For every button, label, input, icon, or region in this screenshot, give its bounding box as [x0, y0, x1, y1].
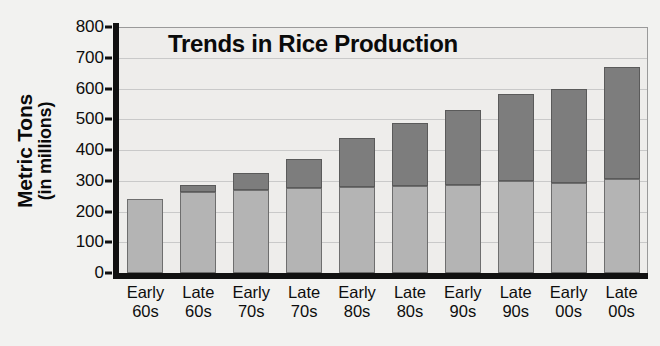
bar-segment-upper: [392, 123, 428, 186]
bar-segment-upper: [233, 173, 269, 190]
bar-column: [498, 27, 534, 273]
bar-segment-upper: [339, 138, 375, 187]
bar-segment-upper: [286, 159, 322, 188]
x-tick-label: Late70s: [278, 283, 331, 321]
bar-column: [445, 27, 481, 273]
y-tick-label: 500: [76, 109, 104, 129]
bar-segment-lower: [127, 199, 163, 273]
x-tick-label: Late90s: [489, 283, 542, 321]
y-axis-title: Metric Tons (in millions): [6, 6, 62, 296]
y-axis-ticks: 8007006005004003002001000: [60, 0, 112, 346]
bar-column: [604, 27, 640, 273]
y-tick-label: 700: [76, 48, 104, 68]
bar-segment-upper: [498, 94, 534, 182]
bar-column: [286, 27, 322, 273]
y-tick-mark: [105, 87, 112, 90]
y-tick-label: 800: [76, 17, 104, 37]
rice-production-chart: Metric Tons (in millions) 80070060050040…: [0, 0, 660, 346]
y-tick-mark: [105, 210, 112, 213]
bar-segment-lower: [233, 190, 269, 273]
bar-segment-upper: [445, 110, 481, 185]
bar-segment-lower: [498, 181, 534, 273]
bar-column: [551, 27, 587, 273]
x-tick-label: Early00s: [542, 283, 595, 321]
x-tick-label: Late00s: [595, 283, 648, 321]
y-tick-label: 300: [76, 171, 104, 191]
bar-column: [180, 27, 216, 273]
bar-segment-lower: [392, 186, 428, 273]
y-tick-label: 100: [76, 232, 104, 252]
bar-segment-lower: [551, 183, 587, 273]
bar-segment-lower: [286, 188, 322, 273]
x-tick-label: Late80s: [384, 283, 437, 321]
x-tick-label: Early80s: [331, 283, 384, 321]
bar-segment-upper: [551, 89, 587, 184]
bar-segment-upper: [180, 185, 216, 191]
y-tick-label: 600: [76, 79, 104, 99]
y-tick-mark: [105, 118, 112, 121]
y-tick-mark: [105, 179, 112, 182]
bar-column: [127, 27, 163, 273]
x-axis-labels: Early60sLate60sEarly70sLate70sEarly80sLa…: [119, 283, 648, 339]
bar-segment-upper: [604, 67, 640, 179]
x-tick-label: Early70s: [225, 283, 278, 321]
x-tick-label: Late60s: [172, 283, 225, 321]
y-tick-mark: [105, 56, 112, 59]
y-tick-mark: [105, 26, 112, 29]
bar-segment-lower: [604, 179, 640, 273]
bar-column: [392, 27, 428, 273]
y-tick-label: 200: [76, 202, 104, 222]
y-tick-mark: [105, 241, 112, 244]
chart-title: Trends in Rice Production: [168, 30, 458, 58]
x-tick-label: Early60s: [119, 283, 172, 321]
y-axis-title-line1: Metric Tons: [14, 94, 35, 208]
y-tick-mark: [105, 149, 112, 152]
bar-segment-lower: [445, 185, 481, 273]
y-tick-label: 0: [95, 263, 104, 283]
y-axis-title-line2: (in millions): [36, 102, 54, 200]
y-tick-label: 400: [76, 140, 104, 160]
bar-column: [339, 27, 375, 273]
x-axis-line: [113, 273, 648, 279]
bar-segment-lower: [180, 192, 216, 273]
y-tick-mark: [105, 272, 112, 275]
bar-series-group: [119, 27, 648, 273]
bar-column: [233, 27, 269, 273]
bar-segment-lower: [339, 187, 375, 273]
x-tick-label: Early90s: [436, 283, 489, 321]
